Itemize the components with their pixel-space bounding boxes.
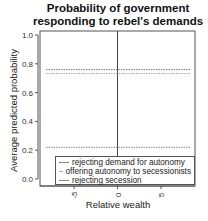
- svg-text:0.0: 0.0: [22, 175, 34, 184]
- svg-text:1.0: 1.0: [22, 31, 34, 40]
- y-axis-label: Average predicted probability: [8, 36, 19, 186]
- svg-text:0.8: 0.8: [22, 60, 34, 69]
- legend-label: offering autonomy to secessionists: [66, 167, 191, 176]
- legend-line-icon: [59, 180, 69, 181]
- svg-text:0.2: 0.2: [22, 146, 34, 155]
- y-tick-labels: 0.0 0.2 0.4 0.6 0.8 1.0: [22, 31, 34, 184]
- svg-text:0: 0: [114, 192, 123, 197]
- legend: rejecting demand for autonomy offering a…: [55, 156, 195, 185]
- legend-item: rejecting demand for autonomy: [59, 158, 191, 167]
- legend-item: offering autonomy to secessionists: [59, 167, 191, 176]
- legend-label: rejecting secession: [72, 176, 142, 185]
- x-tick-labels: -5 0 5: [70, 191, 166, 199]
- svg-text:0.4: 0.4: [22, 117, 34, 126]
- x-axis-label: Relative wealth: [40, 199, 196, 210]
- legend-label: rejecting demand for autonomy: [72, 158, 185, 167]
- legend-line-icon: [59, 171, 63, 172]
- plot-svg: 0.0 0.2 0.4 0.6 0.8 1.0 -5 0 5: [0, 0, 208, 221]
- svg-text:0.6: 0.6: [22, 89, 34, 98]
- legend-line-icon: [59, 162, 69, 163]
- svg-text:5: 5: [157, 192, 166, 197]
- x-ticks: [40, 186, 195, 189]
- svg-text:-5: -5: [70, 191, 79, 199]
- legend-item: rejecting secession: [59, 176, 191, 185]
